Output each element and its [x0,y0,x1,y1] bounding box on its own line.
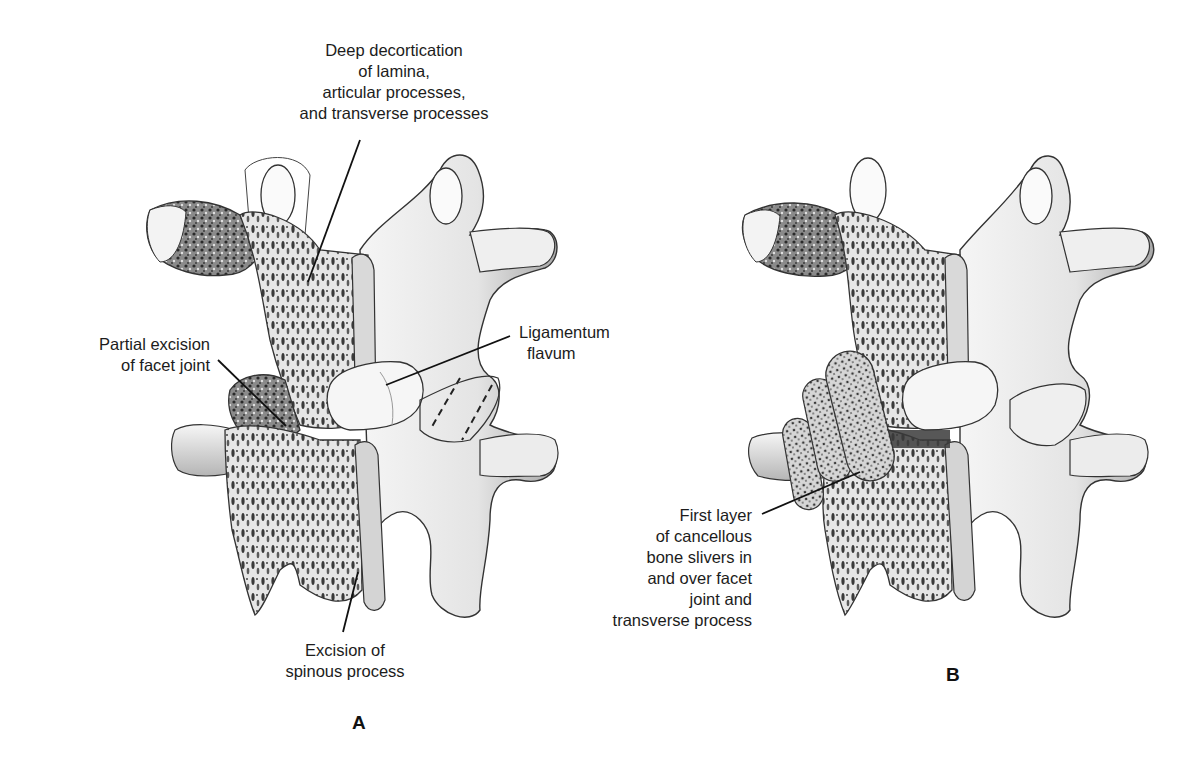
label-line: Excision of [250,640,440,661]
spine-fusion-illustration [0,0,1202,768]
label-line: First layer [560,505,752,526]
label-line: Partial excision [20,334,210,355]
panel-a-drawing [147,155,558,617]
label-line: of facet joint [20,355,210,376]
label-line: of cancellous [560,526,752,547]
label-line: bone slivers in [560,547,752,568]
label-line: articular processes, [272,82,516,103]
label-line: transverse process [560,610,752,631]
label-excision-spinous: Excision of spinous process [250,640,440,682]
label-line: and over facet [560,568,752,589]
label-line: spinous process [250,661,440,682]
label-deep-decortication: Deep decortication of lamina, articular … [272,40,516,124]
label-line: flavum [519,343,610,364]
label-line: and transverse processes [272,103,516,124]
label-ligamentum-flavum: Ligamentum flavum [519,322,610,364]
label-line: Deep decortication [272,40,516,61]
label-partial-facet-excision: Partial excision of facet joint [20,334,210,376]
panel-label-b: B [946,664,960,686]
panel-label-a: A [352,712,366,734]
label-line: joint and [560,589,752,610]
panel-b-drawing [742,156,1153,617]
label-line: Ligamentum [519,322,610,343]
label-cancellous-bone-slivers: First layer of cancellous bone slivers i… [560,505,752,631]
label-line: of lamina, [272,61,516,82]
